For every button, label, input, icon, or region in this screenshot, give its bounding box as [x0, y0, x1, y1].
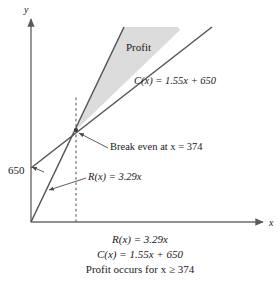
break-even-figure: y x 650 Profit C(x) = 1.55x + 650 Break … — [0, 0, 280, 284]
caption-line-3: Profit occurs for x ≥ 374 — [0, 262, 280, 277]
breakeven-point — [74, 128, 78, 132]
breakeven-callout-label: Break even at x = 374 — [110, 142, 203, 153]
caption-line-2: C(x) = 1.55x + 650 — [0, 247, 280, 262]
revenue-equation-label: R(x) = 3.29x — [88, 172, 141, 183]
caption-line-1: R(x) = 3.29x — [0, 232, 280, 247]
x-axis-label: x — [269, 218, 273, 228]
y-intercept-tick-label: 650 — [8, 165, 25, 176]
revenue-label-leader — [49, 178, 86, 190]
profit-region-label: Profit — [126, 42, 151, 53]
cost-equation-label: C(x) = 1.55x + 650 — [134, 76, 216, 87]
breakeven-leader — [79, 133, 108, 148]
y-axis-label: y — [24, 5, 28, 15]
y-intercept-leader — [32, 167, 44, 172]
revenue-line — [31, 27, 124, 222]
figure-caption: R(x) = 3.29x C(x) = 1.55x + 650 Profit o… — [0, 232, 280, 277]
